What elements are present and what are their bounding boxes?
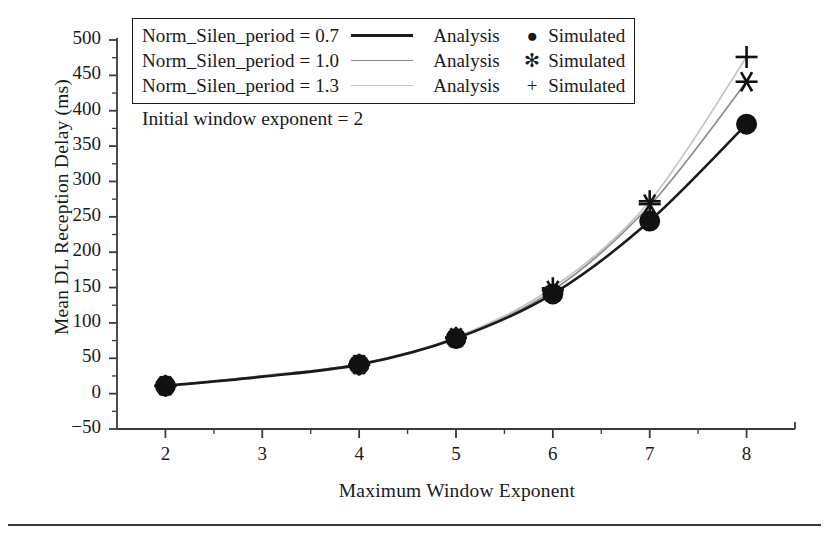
legend-row: Norm_Silen_period = 1.0 Analysis ✻ Simul…: [142, 48, 625, 73]
y-tick-label: 200: [39, 239, 101, 261]
x-tick-label: 7: [630, 443, 670, 465]
y-tick-label: 350: [39, 133, 101, 155]
x-axis-title: Maximum Window Exponent: [117, 480, 797, 502]
data-point-plus: [348, 354, 370, 376]
y-tick-label: 250: [39, 204, 101, 226]
asterisk-marker-icon: ✻: [519, 49, 545, 72]
x-tick-label: 2: [145, 443, 185, 465]
legend-condition-label: Norm_Silen_period = 1.0: [142, 50, 339, 72]
legend-analysis-label: Analysis: [425, 25, 519, 47]
legend-condition-label: Norm_Silen_period = 1.3: [142, 75, 339, 97]
legend-row: Norm_Silen_period = 0.7 Analysis ● Simul…: [142, 23, 625, 48]
legend-line-sample: [345, 60, 419, 61]
y-tick-label: 150: [39, 275, 101, 297]
y-tick-label: 450: [39, 62, 101, 84]
legend-condition-label: Norm_Silen_period = 0.7: [142, 25, 339, 47]
legend-row: Norm_Silen_period = 1.3 Analysis + Simul…: [142, 73, 625, 98]
plus-marker-icon: +: [519, 75, 545, 97]
data-point-circle: [736, 114, 757, 135]
circle-marker-icon: ●: [519, 25, 545, 47]
data-point-plus: [736, 46, 758, 68]
y-tick-label: 300: [39, 168, 101, 190]
legend: Norm_Silen_period = 0.7 Analysis ● Simul…: [132, 18, 635, 104]
legend-analysis-label: Analysis: [425, 50, 519, 72]
data-point-circle: [639, 211, 660, 232]
y-tick-label: 400: [39, 98, 101, 120]
data-point-plus: [154, 375, 176, 397]
figure-container: Mean DL Reception Delay (ms) Maximum Win…: [0, 0, 829, 539]
legend-analysis-label: Analysis: [425, 75, 519, 97]
legend-simulated-label: Simulated: [545, 25, 625, 47]
legend-simulated-label: Simulated: [545, 50, 625, 72]
y-tick-label: −50: [39, 416, 101, 438]
circle-marker-icon: [736, 114, 757, 135]
data-point-asterisk: [736, 72, 758, 91]
x-tick-label: 8: [727, 443, 767, 465]
x-tick-label: 3: [242, 443, 282, 465]
x-tick-label: 6: [533, 443, 573, 465]
y-tick-label: 500: [39, 27, 101, 49]
chart-annotation: Initial window exponent = 2: [142, 108, 363, 130]
circle-marker-icon: [639, 211, 660, 232]
y-tick-label: 50: [39, 345, 101, 367]
legend-simulated-label: Simulated: [545, 75, 625, 97]
x-tick-label: 4: [339, 443, 379, 465]
bottom-divider: [8, 524, 821, 526]
legend-line-sample: [345, 34, 419, 37]
y-tick-label: 0: [39, 381, 101, 403]
x-tick-label: 5: [436, 443, 476, 465]
y-tick-label: 100: [39, 310, 101, 332]
legend-line-sample: [345, 85, 419, 86]
